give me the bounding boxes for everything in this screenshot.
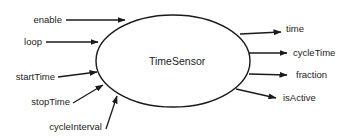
input-label-cycleinterval: cycleInterval bbox=[49, 121, 102, 132]
time-arrow bbox=[240, 32, 281, 34]
stoptime-arrow bbox=[73, 85, 103, 103]
input-label-loop: loop bbox=[24, 36, 42, 47]
input-label-enable: enable bbox=[33, 14, 62, 25]
cycleinterval-arrow bbox=[106, 96, 117, 129]
fraction-arrow bbox=[249, 74, 287, 75]
output-label-isactive: isActive bbox=[283, 92, 316, 103]
output-label-cycletime: cycleTime bbox=[293, 47, 335, 58]
input-label-stoptime: stopTime bbox=[31, 96, 70, 107]
starttime-arrow bbox=[58, 72, 97, 77]
isactive-arrow bbox=[236, 89, 276, 98]
input-label-starttime: startTime bbox=[16, 71, 55, 82]
node-label: TimeSensor bbox=[149, 55, 205, 67]
output-label-fraction: fraction bbox=[296, 69, 327, 80]
output-label-time: time bbox=[286, 23, 304, 34]
